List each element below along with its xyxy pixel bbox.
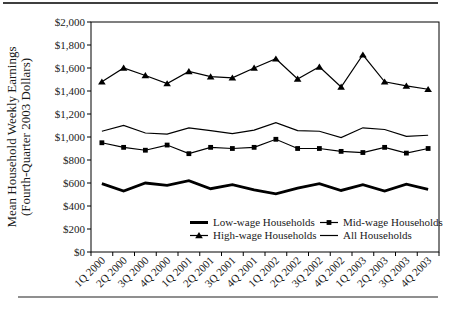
mid-wage-square-marker-swatch <box>320 218 338 227</box>
y-tick-label: $400 <box>63 200 86 212</box>
triangle-marker-high-wage-households <box>185 68 193 74</box>
low-wage-line-swatch <box>190 218 208 227</box>
square-marker-mid-wage-households <box>165 143 170 148</box>
earnings-line-chart-figure: Mean Household Weekly Earnings (Fourth-Q… <box>0 0 456 314</box>
series-high-wage-households <box>102 55 428 90</box>
square-marker-mid-wage-households <box>339 149 344 154</box>
triangle-marker-high-wage-households <box>316 63 324 69</box>
legend-entry-mid-wage-households: Mid-wage Households <box>320 216 443 229</box>
square-marker-mid-wage-households <box>317 146 322 151</box>
square-marker-mid-wage-households <box>99 140 104 145</box>
y-tick-label: $1,800 <box>55 39 86 51</box>
triangle-marker-high-wage-households <box>163 80 171 86</box>
square-marker-mid-wage-households <box>143 148 148 153</box>
square-marker-mid-wage-households <box>426 146 431 151</box>
legend: Low-wage Households Mid-wage Households … <box>190 216 443 242</box>
y-tick-label: $1,400 <box>55 85 86 97</box>
square-marker-mid-wage-households <box>186 151 191 156</box>
square-marker-mid-wage-households <box>230 146 235 151</box>
triangle-marker-high-wage-households <box>272 55 280 61</box>
series-mid-wage-households <box>102 139 428 153</box>
y-tick-label: $1,200 <box>55 108 86 120</box>
y-tick-label: $1,000 <box>55 131 86 143</box>
all-households-line-swatch <box>320 231 338 240</box>
y-tick-label: $1,600 <box>55 62 86 74</box>
square-marker-mid-wage-households <box>360 150 365 155</box>
triangle-marker-high-wage-households <box>359 51 367 57</box>
square-marker-mid-wage-households <box>295 146 300 151</box>
series-low-wage-households <box>102 181 428 194</box>
legend-entry-low-wage-households: Low-wage Households <box>190 216 314 229</box>
bottom-rule <box>18 296 438 298</box>
legend-square-sample <box>327 220 332 225</box>
legend-label-low-wage: Low-wage Households <box>213 216 315 229</box>
square-marker-mid-wage-households <box>382 145 387 150</box>
legend-label-all-households: All Households <box>343 229 412 242</box>
square-marker-mid-wage-households <box>273 137 278 142</box>
series-all-households <box>102 123 428 138</box>
triangle-marker-high-wage-households <box>98 78 106 84</box>
square-marker-mid-wage-households <box>252 145 257 150</box>
y-tick-label: $800 <box>63 154 86 166</box>
y-tick-label: $200 <box>63 223 86 235</box>
square-marker-mid-wage-households <box>121 145 126 150</box>
plot-area: $0$200$400$600$800$1,000$1,200$1,400$1,6… <box>0 0 456 314</box>
triangle-marker-high-wage-households <box>250 65 258 71</box>
legend-entry-all-households: All Households <box>320 229 443 242</box>
legend-label-high-wage: High-wage Households <box>213 229 317 242</box>
square-marker-mid-wage-households <box>404 151 409 156</box>
legend-label-mid-wage: Mid-wage Households <box>343 216 443 229</box>
y-tick-label: $0 <box>74 246 86 258</box>
legend-entry-high-wage-households: High-wage Households <box>190 229 314 242</box>
triangle-marker-high-wage-households <box>120 65 128 71</box>
y-tick-label: $2,000 <box>55 16 86 28</box>
high-wage-triangle-marker-swatch <box>190 231 208 240</box>
y-tick-label: $600 <box>63 177 86 189</box>
square-marker-mid-wage-households <box>208 145 213 150</box>
